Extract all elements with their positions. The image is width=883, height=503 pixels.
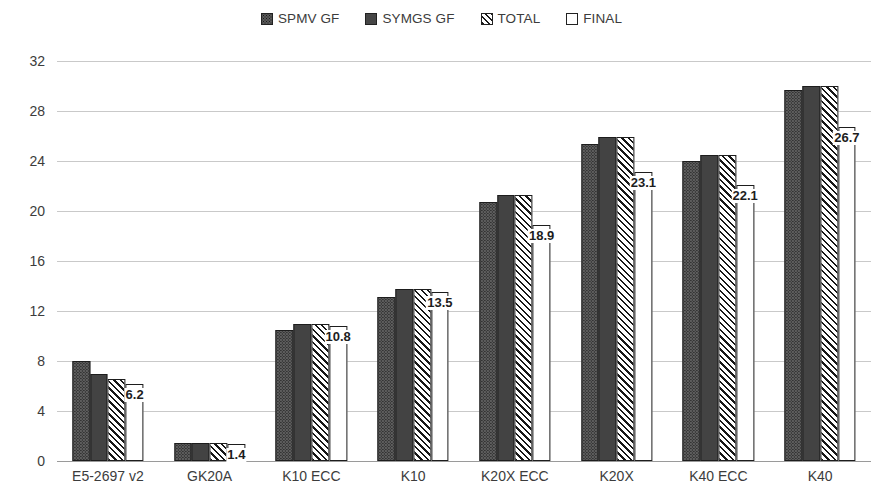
bar-symgs-gf-k40[interactable] <box>802 86 820 461</box>
bar-spmv-gf-k40[interactable] <box>785 90 803 461</box>
legend-label-final: FINAL <box>583 11 622 26</box>
bar-final-k10[interactable]: 13.5 <box>431 292 449 461</box>
y-tick-label-24: 24 <box>29 153 45 169</box>
bar-spmv-gf-k40-ecc[interactable] <box>683 161 701 461</box>
bar-final-gk20a[interactable]: 1.4 <box>227 444 245 462</box>
legend-label-spmv-gf: SPMV GF <box>278 11 339 26</box>
bar-symgs-gf-gk20a[interactable] <box>192 443 210 461</box>
bar-final-k10-ecc[interactable]: 10.8 <box>329 326 347 461</box>
x-tick-label-k40: K40 <box>769 468 871 484</box>
y-tick-label-16: 16 <box>29 253 45 269</box>
bar-value-label: 6.2 <box>125 388 145 402</box>
x-tick-label-k10: K10 <box>362 468 464 484</box>
x-tick-label-k20x-ecc: K20X ECC <box>464 468 566 484</box>
bar-symgs-gf-k10-ecc[interactable] <box>294 324 312 462</box>
bar-value-label: 13.5 <box>426 296 453 310</box>
y-tick-label-4: 4 <box>37 403 45 419</box>
bar-spmv-gf-gk20a[interactable] <box>174 443 192 461</box>
bar-group-k10-ecc: 10.8 <box>261 61 363 461</box>
bar-total-gk20a[interactable] <box>210 443 228 461</box>
bar-spmv-gf-k10[interactable] <box>378 297 396 461</box>
bar-spmv-gf-k20x-ecc[interactable] <box>479 202 497 461</box>
bar-value-label: 18.9 <box>528 229 555 243</box>
y-tick-label-12: 12 <box>29 303 45 319</box>
bar-value-label: 1.4 <box>226 448 246 462</box>
bar-group-bars: 10.8 <box>276 61 347 461</box>
bar-value-label: 22.1 <box>731 189 758 203</box>
bar-final-k40-ecc[interactable]: 22.1 <box>736 185 754 461</box>
legend-item-spmv-gf[interactable]: SPMV GF <box>261 11 339 26</box>
bar-group-bars: 18.9 <box>479 61 550 461</box>
bar-group-k10: 13.5 <box>362 61 464 461</box>
legend-swatch-final <box>566 13 578 25</box>
y-tick-label-0: 0 <box>37 453 45 469</box>
legend-item-symgs-gf[interactable]: SYMGS GF <box>365 11 454 26</box>
chart-legend: SPMV GF SYMGS GF TOTAL FINAL <box>0 11 883 26</box>
bar-group-k20x: 23.1 <box>566 61 668 461</box>
bar-group-bars: 1.4 <box>174 61 245 461</box>
bar-total-k10-ecc[interactable] <box>311 324 329 462</box>
x-tick-label-k10-ecc: K10 ECC <box>261 468 363 484</box>
bar-value-label: 10.8 <box>324 330 351 344</box>
legend-swatch-total <box>481 13 493 25</box>
y-tick-label-8: 8 <box>37 353 45 369</box>
bar-final-k20x-ecc[interactable]: 18.9 <box>533 225 551 461</box>
legend-item-final[interactable]: FINAL <box>566 11 622 26</box>
bar-spmv-gf-k20x[interactable] <box>581 144 599 462</box>
y-axis-labels: 048121620242832 <box>0 61 45 461</box>
bar-group-k20x-ecc: 18.9 <box>464 61 566 461</box>
legend-swatch-symgs-gf <box>365 13 377 25</box>
bar-final-k20x[interactable]: 23.1 <box>634 172 652 461</box>
bar-group-bars: 6.2 <box>72 61 143 461</box>
bar-group-bars: 26.7 <box>785 61 856 461</box>
bar-symgs-gf-k10[interactable] <box>395 289 413 462</box>
x-tick-label-gk20a: GK20A <box>159 468 261 484</box>
bar-group-bars: 23.1 <box>581 61 652 461</box>
bar-total-e5-2697-v2[interactable] <box>108 379 126 462</box>
legend-label-symgs-gf: SYMGS GF <box>382 11 454 26</box>
bar-group-e5-2697-v2: 6.2 <box>57 61 159 461</box>
bar-symgs-gf-e5-2697-v2[interactable] <box>90 374 108 462</box>
bar-group-k40-ecc: 22.1 <box>668 61 770 461</box>
plot-area: 6.21.410.813.518.923.122.126.7 <box>57 61 871 461</box>
legend-label-total: TOTAL <box>498 11 541 26</box>
y-tick-label-28: 28 <box>29 103 45 119</box>
bar-spmv-gf-k10-ecc[interactable] <box>276 330 294 461</box>
legend-swatch-spmv-gf <box>261 13 273 25</box>
bar-total-k10[interactable] <box>413 289 431 462</box>
bar-spmv-gf-e5-2697-v2[interactable] <box>72 361 90 461</box>
bar-symgs-gf-k20x-ecc[interactable] <box>497 195 515 461</box>
bar-group-bars: 22.1 <box>683 61 754 461</box>
y-tick-label-20: 20 <box>29 203 45 219</box>
bar-symgs-gf-k20x[interactable] <box>599 137 617 461</box>
bar-value-label: 26.7 <box>833 131 860 145</box>
x-axis-labels: E5-2697 v2GK20AK10 ECCK10K20X ECCK20XK40… <box>57 468 871 484</box>
gridline-0 <box>57 461 871 462</box>
bar-final-k40[interactable]: 26.7 <box>838 127 856 461</box>
y-tick-label-32: 32 <box>29 53 45 69</box>
bar-final-e5-2697-v2[interactable]: 6.2 <box>126 384 144 462</box>
bar-value-label: 23.1 <box>630 176 657 190</box>
x-tick-label-k20x: K20X <box>566 468 668 484</box>
bar-group-gk20a: 1.4 <box>159 61 261 461</box>
bar-symgs-gf-k40-ecc[interactable] <box>701 155 719 461</box>
chart-container: SPMV GF SYMGS GF TOTAL FINAL 04812162024… <box>0 0 883 503</box>
x-tick-label-e5-2697-v2: E5-2697 v2 <box>57 468 159 484</box>
bar-group-k40: 26.7 <box>769 61 871 461</box>
x-tick-label-k40-ecc: K40 ECC <box>668 468 770 484</box>
legend-item-total[interactable]: TOTAL <box>481 11 541 26</box>
bar-groups: 6.21.410.813.518.923.122.126.7 <box>57 61 871 461</box>
bar-group-bars: 13.5 <box>378 61 449 461</box>
